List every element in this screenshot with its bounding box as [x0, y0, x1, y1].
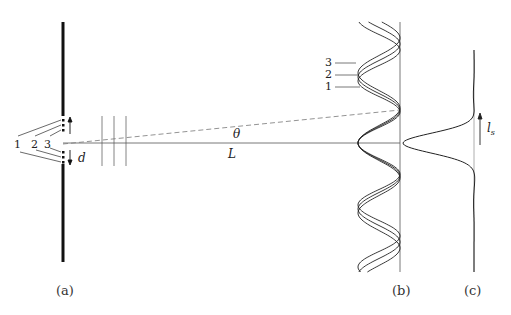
coherence-length-label: ls — [487, 122, 495, 137]
panel-a-caption: (a) — [56, 284, 74, 297]
angle-label: θ — [233, 128, 240, 140]
slit-points — [62, 119, 65, 164]
panel-b-caption: (b) — [392, 284, 410, 297]
source-label-3: 3 — [44, 139, 51, 150]
source-leader-lines — [18, 120, 61, 162]
slit-separation-label: d — [78, 152, 86, 164]
panel-c-caption: (c) — [464, 284, 481, 297]
diagram-canvas — [0, 0, 511, 315]
angle-ray — [63, 110, 400, 144]
interference-patterns — [358, 22, 400, 272]
distance-label: L — [228, 148, 236, 160]
pattern-label-1: 1 — [325, 81, 332, 92]
d-arrows — [68, 117, 72, 165]
intensity-profile — [403, 50, 475, 272]
wavefronts — [102, 116, 126, 166]
source-label-2: 2 — [31, 139, 38, 150]
pattern-label-2: 2 — [325, 69, 332, 80]
pattern-label-3: 3 — [325, 57, 332, 68]
ls-arrow — [478, 113, 482, 145]
pattern-leader-lines — [335, 63, 360, 87]
source-label-1: 1 — [14, 139, 21, 150]
